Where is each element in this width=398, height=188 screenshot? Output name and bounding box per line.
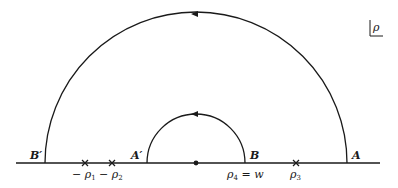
- outer-arc: [45, 12, 347, 163]
- label-rho3: ρ3: [289, 168, 301, 182]
- contour-diagram: B′ A′ B A − ρ1 − ρ2 ρ3 ρ4 = w ρ: [0, 0, 398, 188]
- label-b-prime: B′: [29, 149, 42, 162]
- inner-arc: [147, 114, 245, 163]
- label-a-prime: A′: [130, 149, 143, 162]
- plane-label: ρ: [372, 21, 380, 34]
- origin-dot: [194, 161, 199, 166]
- label-a: A: [351, 149, 361, 162]
- label-neg-rho2: − ρ2: [99, 168, 123, 182]
- label-b: B: [249, 149, 259, 162]
- label-rho4-eq-w: ρ4 = w: [226, 168, 264, 182]
- inner-arc-arrow-icon: [191, 111, 198, 117]
- label-neg-rho1: − ρ1: [72, 168, 96, 182]
